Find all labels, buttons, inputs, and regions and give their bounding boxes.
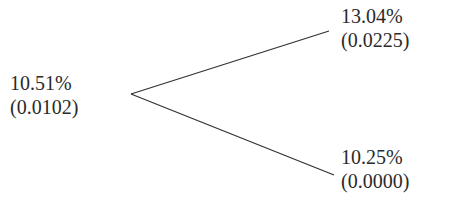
root-rate: 10.51% <box>10 71 78 95</box>
down-branch-line <box>131 94 334 175</box>
down-value: (0.0000) <box>341 169 409 193</box>
up-branch-line <box>131 31 329 94</box>
root-value: (0.0102) <box>10 95 78 119</box>
up-value: (0.0225) <box>341 28 409 52</box>
up-rate: 13.04% <box>341 4 409 28</box>
root-node: 10.51% (0.0102) <box>10 71 78 119</box>
up-node: 13.04% (0.0225) <box>341 4 409 52</box>
down-rate: 10.25% <box>341 145 409 169</box>
down-node: 10.25% (0.0000) <box>341 145 409 193</box>
